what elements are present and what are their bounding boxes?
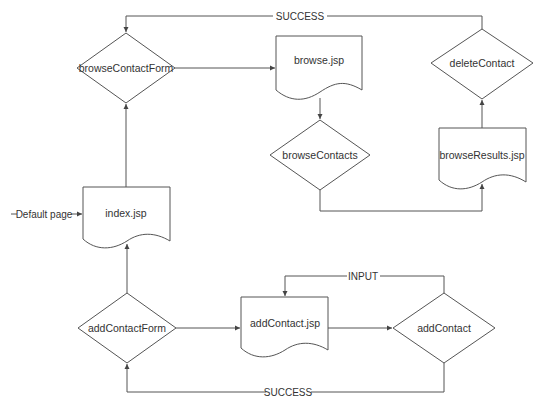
node-label: deleteContact — [450, 57, 515, 69]
edge-label-success-top: SUCCESS — [276, 11, 325, 22]
edge-label-success-bottom: SUCCESS — [264, 387, 313, 398]
flowchart-canvas: browseContactForm browse.jsp browseConta… — [0, 0, 538, 405]
edge-label-default-page: Default page — [16, 209, 73, 220]
node-browse-contact-form[interactable]: browseContactForm — [77, 33, 175, 103]
node-browse-contacts[interactable]: browseContacts — [270, 120, 370, 190]
node-label: browseContacts — [282, 149, 357, 161]
node-label: addContact.jsp — [250, 317, 320, 329]
node-delete-contact[interactable]: deleteContact — [431, 29, 533, 99]
node-label: addContact — [417, 322, 471, 334]
node-add-contact[interactable]: addContact — [393, 293, 495, 363]
node-add-contact-jsp[interactable]: addContact.jsp — [241, 297, 328, 357]
node-label: browseResults.jsp — [439, 149, 524, 161]
node-browse-jsp[interactable]: browse.jsp — [276, 36, 362, 99]
node-browse-results-jsp[interactable]: browseResults.jsp — [439, 128, 526, 189]
node-index-jsp[interactable]: index.jsp — [83, 187, 170, 248]
edge-label-input: INPUT — [348, 271, 378, 282]
node-label: index.jsp — [105, 207, 147, 219]
node-label: addContactForm — [88, 322, 166, 334]
node-label: browse.jsp — [294, 54, 344, 66]
node-add-contact-form[interactable]: addContactForm — [78, 293, 176, 363]
node-label: browseContactForm — [79, 62, 174, 74]
